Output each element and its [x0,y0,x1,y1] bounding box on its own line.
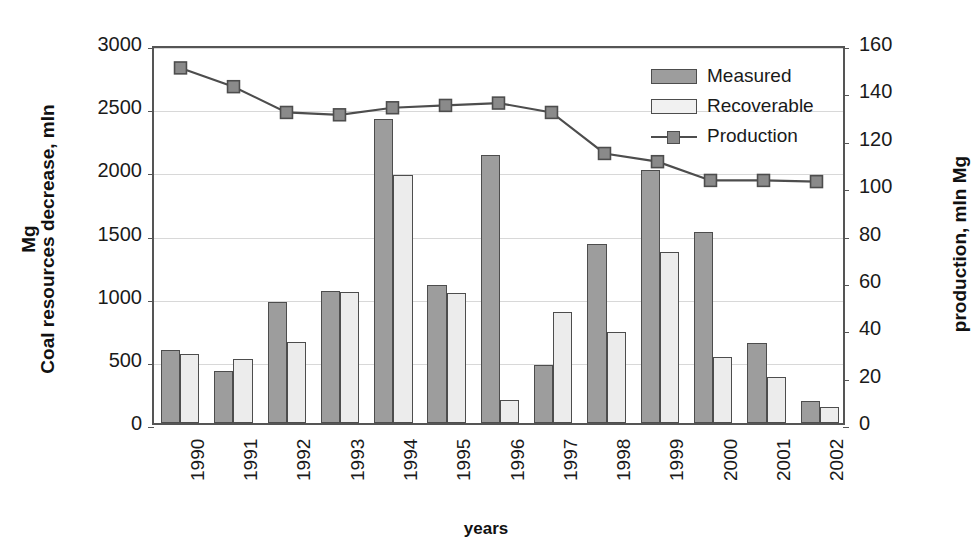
x-axis-tick-label: 2000 [720,439,742,481]
x-axis-tick-label: 2001 [773,439,795,481]
legend-swatch-icon [651,99,697,114]
y-tick-mark-right [843,238,849,239]
x-axis-tick-label: 1998 [613,439,635,481]
bar-measured-2000 [694,232,713,423]
x-axis-tick-label: 1990 [187,439,209,481]
y-tick-mark-left [148,238,154,239]
production-marker-1990 [175,62,187,74]
bar-recoverable-1996 [500,400,519,423]
y-axis-left-tick-label: 2000 [70,159,142,182]
x-axis-tick-label: 1996 [507,439,529,481]
y-tick-mark-right [843,427,849,428]
legend-item-measured: Measured [651,61,835,91]
y-axis-right-tick-label: 100 [859,175,931,198]
x-axis-tick-label: 1993 [347,439,369,481]
bar-measured-2002 [801,401,820,423]
bar-measured-2001 [747,343,766,423]
y-tick-mark-right [843,95,849,96]
production-marker-1995 [440,99,452,111]
x-axis-tick-label: 1991 [240,439,262,481]
y-axis-left-tick-label: 1000 [70,286,142,309]
production-marker-1996 [493,97,505,109]
bar-measured-1999 [641,170,660,423]
legend-swatch-icon [651,69,697,84]
bar-recoverable-1993 [340,292,359,423]
x-axis-tick-label: 1995 [453,439,475,481]
y-axis-left-tick-label: 500 [70,349,142,372]
y-tick-mark-right [843,285,849,286]
y-tick-mark-left [148,427,154,428]
production-marker-1991 [228,81,240,93]
bar-recoverable-1991 [233,359,252,423]
y-axis-left-tick-label: 2500 [70,96,142,119]
y-axis-right-tick-label: 20 [859,365,931,388]
y-tick-mark-left [148,301,154,302]
y-axis-right-tick-label: 160 [859,33,931,56]
legend-line-marker-icon [651,129,697,144]
y-axis-left-tick-label: 3000 [70,33,142,56]
x-axis-tick-label: 1992 [293,439,315,481]
bar-measured-1992 [268,302,287,423]
bar-recoverable-1999 [660,252,679,423]
x-axis-tick-label: 1997 [560,439,582,481]
legend-item-production: Production [651,121,835,151]
bar-recoverable-1992 [287,342,306,423]
x-axis-tick-label: 2002 [826,439,848,481]
bar-recoverable-2002 [820,407,839,423]
bar-measured-1996 [481,155,500,423]
y-tick-mark-right [843,143,849,144]
production-marker-1992 [281,107,293,119]
y-axis-right-tick-label: 60 [859,270,931,293]
bar-measured-1991 [214,371,233,423]
legend-label: Measured [707,65,792,87]
bar-recoverable-1995 [447,293,466,423]
production-marker-2000 [705,174,717,186]
x-axis-tick-label: 1994 [400,439,422,481]
bar-measured-1990 [161,350,180,423]
legend-item-recoverable: Recoverable [651,91,835,121]
bar-recoverable-1997 [553,312,572,423]
bar-recoverable-2001 [767,377,786,423]
production-marker-2002 [811,176,823,188]
bar-recoverable-2000 [713,357,732,423]
legend-label: Recoverable [707,95,814,117]
y-axis-right-tick-label: 80 [859,223,931,246]
y-axis-right-tick-label: 40 [859,317,931,340]
gridline [154,48,843,49]
production-marker-1998 [599,148,611,160]
y-tick-mark-left [148,48,154,49]
y-tick-mark-right [843,48,849,49]
y-axis-left-tick-label: 1500 [70,223,142,246]
y-axis-right-tick-label: 0 [859,412,931,435]
y-tick-mark-right [843,380,849,381]
bar-measured-1993 [321,291,340,423]
y-tick-mark-right [843,190,849,191]
bar-measured-1997 [534,365,553,423]
production-marker-2001 [758,174,770,186]
legend-label: Production [707,125,798,147]
bar-recoverable-1990 [180,354,199,423]
y-axis-right-tick-label: 140 [859,80,931,103]
bar-measured-1998 [587,244,606,423]
y-axis-right-tick-label: 120 [859,128,931,151]
bar-measured-1995 [427,285,446,423]
bar-recoverable-1994 [393,175,412,423]
y-tick-mark-left [148,364,154,365]
chart-container: Coal resources decrease, mln Mg producti… [0,0,972,554]
bar-recoverable-1998 [607,332,626,423]
y-axis-left-tick-label: 0 [70,412,142,435]
x-axis-title: years [0,519,972,539]
y-axis-left-title-line2: Mg [18,184,40,294]
y-tick-mark-left [148,174,154,175]
y-tick-mark-left [148,111,154,112]
production-marker-1997 [546,107,558,119]
y-axis-left-title: Coal resources decrease, mln [37,74,59,404]
bar-measured-1994 [374,119,393,423]
y-axis-right-title: production, mln Mg [949,79,971,409]
y-tick-mark-right [843,332,849,333]
chart-legend: MeasuredRecoverableProduction [643,55,843,159]
x-axis-tick-label: 1999 [666,439,688,481]
